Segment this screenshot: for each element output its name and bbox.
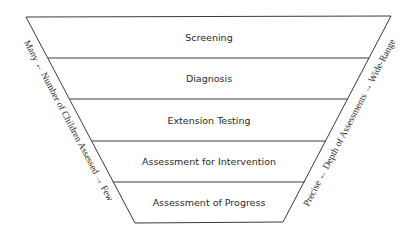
left-axis-label: Many ← Number of Children Assessed → Few: [22, 38, 115, 203]
level-screening: Screening: [185, 32, 232, 43]
level-extension-testing: Extension Testing: [167, 115, 250, 126]
level-assessment-for-intervention: Assessment for Intervention: [142, 156, 276, 167]
level-diagnosis: Diagnosis: [186, 73, 232, 84]
right-axis-label: Precise ← Depth of Assessments → Wide-Ra…: [301, 37, 397, 207]
funnel-diagram: Screening Diagnosis Extension Testing As…: [0, 0, 420, 236]
level-assessment-of-progress: Assessment of Progress: [153, 197, 266, 208]
